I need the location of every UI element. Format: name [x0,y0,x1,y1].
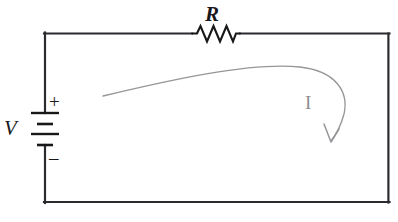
circuit-diagram: R V + – I [0,0,398,222]
positive-terminal-label: + [49,92,60,111]
voltage-source-label: V [4,118,17,139]
resistor-label: R [205,4,219,25]
battery-symbol [31,113,59,145]
circuit-loop-wire [44,33,390,204]
current-label: I [305,93,311,112]
resistor-symbol [192,26,240,42]
negative-terminal-label: – [49,148,59,167]
resistor-zigzag-icon [192,26,240,42]
